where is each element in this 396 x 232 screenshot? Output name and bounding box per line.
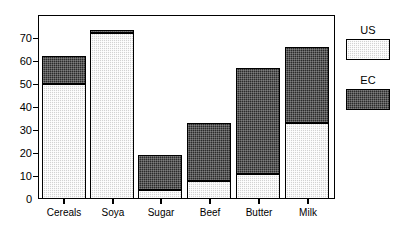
x-tick-label-milk: Milk: [299, 208, 317, 218]
y-tick-mark: [33, 61, 38, 63]
y-tick-label: 70: [8, 33, 32, 44]
bar-segment-ec-beef: [187, 123, 231, 181]
stacked-bar-chart: 0 10 20 30 40 50 60 70: [0, 0, 396, 232]
legend-entry-us: US: [346, 24, 396, 60]
bar-segment-us-soya: [90, 33, 134, 199]
y-tick-mark: [33, 38, 38, 40]
x-tick-label-beef: Beef: [200, 208, 221, 218]
y-tick-label: 30: [8, 125, 32, 136]
bar-segment-us-sugar: [138, 190, 182, 199]
y-tick-label: 10: [8, 171, 32, 182]
bar-cereals: [42, 56, 86, 199]
x-tick-mark: [307, 199, 309, 204]
bar-segment-ec-sugar: [138, 155, 182, 190]
x-tick-label-sugar: Sugar: [148, 208, 175, 218]
bar-milk: [285, 47, 329, 199]
x-tick-mark: [63, 199, 65, 204]
y-tick-mark: [33, 107, 38, 109]
x-tick-mark: [112, 199, 114, 204]
y-tick-mark: [33, 130, 38, 132]
bar-segment-ec-milk: [285, 47, 329, 123]
bar-segment-us-cereals: [42, 84, 86, 199]
bar-segment-ec-cereals: [42, 56, 86, 84]
x-tick-label-butter: Butter: [246, 208, 273, 218]
y-tick-label: 50: [8, 79, 32, 90]
legend-entry-ec: EC: [346, 74, 396, 110]
legend-swatch-ec: [346, 89, 390, 110]
bar-segment-us-butter: [236, 174, 280, 199]
bar-beef: [187, 123, 231, 199]
y-tick-mark: [33, 84, 38, 86]
legend: US EC: [346, 24, 396, 124]
x-tick-mark: [258, 199, 260, 204]
x-tick-mark: [160, 199, 162, 204]
y-tick-label: 40: [8, 102, 32, 113]
y-tick-mark: [33, 153, 38, 155]
bar-segment-ec-butter: [236, 68, 280, 174]
bar-sugar: [138, 155, 182, 199]
y-tick-mark: [33, 176, 38, 178]
x-tick-mark: [209, 199, 211, 204]
bar-butter: [236, 68, 280, 199]
y-tick-label: 20: [8, 148, 32, 159]
bar-segment-us-beef: [187, 181, 231, 199]
legend-label-ec: EC: [346, 74, 390, 87]
legend-swatch-us: [346, 39, 390, 60]
bar-soya: [90, 31, 134, 199]
x-tick-label-cereals: Cereals: [47, 208, 81, 218]
y-tick-label: 60: [8, 56, 32, 67]
bar-segment-us-milk: [285, 123, 329, 199]
y-tick-label: 0: [8, 194, 32, 205]
x-tick-label-soya: Soya: [102, 208, 125, 218]
legend-label-us: US: [346, 24, 390, 37]
